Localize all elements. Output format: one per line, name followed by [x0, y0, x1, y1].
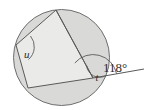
angle-label-118: 118° — [103, 60, 127, 75]
angle-label-u: u — [24, 48, 30, 60]
geometry-canvas: u t 118° — [0, 0, 149, 110]
geometry-figure: u t 118° — [0, 0, 149, 110]
